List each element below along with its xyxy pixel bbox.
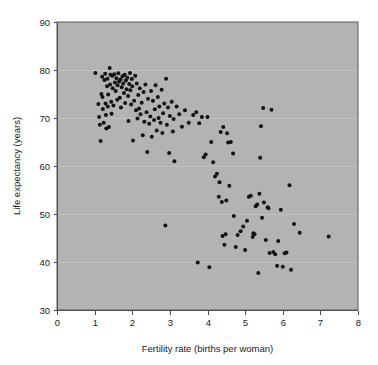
data-point xyxy=(259,124,263,128)
data-point xyxy=(220,200,224,204)
data-point xyxy=(102,121,106,125)
data-point xyxy=(126,94,130,98)
data-point xyxy=(157,116,161,120)
x-tick-label: 5 xyxy=(243,317,248,328)
data-point xyxy=(167,151,171,155)
data-point xyxy=(147,122,151,126)
data-point xyxy=(97,115,101,119)
y-tick-label: 40 xyxy=(39,257,50,268)
data-point xyxy=(146,97,150,101)
chart-canvas: 30405060708090 012345678 Fertility rate … xyxy=(0,0,378,365)
data-point xyxy=(156,95,160,99)
data-point xyxy=(165,123,169,127)
data-point xyxy=(160,131,164,135)
data-point xyxy=(168,114,172,118)
y-tick-label: 30 xyxy=(39,305,50,316)
data-point xyxy=(139,112,143,116)
data-point xyxy=(106,104,110,108)
data-point xyxy=(111,104,115,108)
data-point xyxy=(116,71,120,75)
data-point xyxy=(218,180,222,184)
data-point xyxy=(109,100,113,104)
data-point xyxy=(266,206,270,210)
data-point xyxy=(96,102,100,106)
data-point xyxy=(175,104,179,108)
data-point xyxy=(261,106,265,110)
data-point xyxy=(171,129,175,133)
data-point xyxy=(141,133,145,137)
data-point xyxy=(264,238,268,242)
x-tick-label: 0 xyxy=(55,317,60,328)
data-point xyxy=(260,216,264,220)
data-point xyxy=(118,96,122,100)
data-point xyxy=(138,86,142,90)
data-point xyxy=(107,125,111,129)
data-point xyxy=(106,92,110,96)
data-point xyxy=(93,71,97,75)
data-point xyxy=(130,77,134,81)
data-point xyxy=(145,150,149,154)
data-point xyxy=(258,156,262,160)
data-point xyxy=(101,107,105,111)
data-point xyxy=(136,93,140,97)
data-point xyxy=(262,200,266,204)
data-point xyxy=(209,140,213,144)
data-point xyxy=(128,71,132,75)
data-point xyxy=(150,135,154,139)
data-point xyxy=(227,184,231,188)
data-point xyxy=(137,106,141,110)
y-tick-label: 60 xyxy=(39,161,50,172)
y-tick-label: 90 xyxy=(39,17,50,28)
data-point xyxy=(289,268,293,272)
data-point xyxy=(119,105,123,109)
x-tick-label: 8 xyxy=(356,317,361,328)
data-point xyxy=(245,219,249,223)
data-point xyxy=(256,271,260,275)
data-point xyxy=(98,123,102,127)
data-point xyxy=(236,233,240,237)
data-point xyxy=(219,130,223,134)
data-point xyxy=(142,120,146,124)
x-tick-label: 4 xyxy=(206,317,211,328)
x-tick-label: 1 xyxy=(93,317,98,328)
x-tick-label: 7 xyxy=(318,317,323,328)
x-tick-label: 3 xyxy=(168,317,173,328)
data-point xyxy=(215,172,219,176)
data-point xyxy=(191,113,195,117)
data-point xyxy=(119,78,123,82)
data-point xyxy=(161,111,165,115)
data-point xyxy=(162,102,166,106)
data-point xyxy=(136,116,140,120)
data-point xyxy=(125,76,129,80)
data-point xyxy=(206,115,210,119)
data-point xyxy=(120,85,124,89)
data-point xyxy=(222,243,226,247)
x-tick-label: 2 xyxy=(130,317,135,328)
data-point xyxy=(164,77,168,81)
data-point xyxy=(123,101,127,105)
data-point xyxy=(104,113,108,117)
data-point xyxy=(204,152,208,156)
data-point xyxy=(268,251,272,255)
data-point xyxy=(257,192,261,196)
data-point xyxy=(142,90,146,94)
data-point xyxy=(132,99,136,103)
data-point xyxy=(111,86,115,90)
data-point xyxy=(285,250,289,254)
data-point xyxy=(292,222,296,226)
data-point xyxy=(154,83,158,87)
data-point xyxy=(253,232,257,236)
data-point xyxy=(288,183,292,187)
data-point xyxy=(177,112,181,116)
data-point xyxy=(122,91,126,95)
data-point xyxy=(281,265,285,269)
data-point xyxy=(217,195,221,199)
data-point xyxy=(160,88,164,92)
data-point xyxy=(231,152,235,156)
data-point xyxy=(249,194,253,198)
data-point xyxy=(183,108,187,112)
data-point xyxy=(152,118,156,122)
data-point xyxy=(255,202,259,206)
data-point xyxy=(112,72,116,76)
data-point xyxy=(239,229,243,233)
